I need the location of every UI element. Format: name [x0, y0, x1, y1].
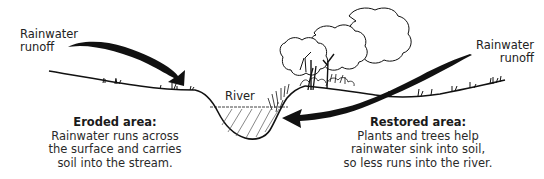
trees-icon [280, 8, 411, 90]
left-runoff-arrow [68, 42, 185, 86]
left-runoff-label-line2: runoff [20, 41, 78, 54]
restored-area-title: Restored area: [338, 116, 498, 130]
eroded-area-line: the surface and carries [40, 143, 190, 157]
restored-area-line: rainwater sink into soil, [338, 143, 498, 157]
eroded-area-line: Rainwater runs across [40, 130, 190, 144]
river-erosion-diagram: Rainwater runoff Rainwater runoff River … [0, 0, 544, 179]
right-runoff-label: Rainwater runoff [470, 39, 534, 65]
left-runoff-label: Rainwater runoff [20, 28, 78, 54]
right-runoff-label-line2: runoff [470, 52, 534, 65]
river-label: River [225, 90, 255, 103]
eroded-area-caption: Eroded area: Rainwater runs across the s… [40, 116, 190, 170]
restored-area-line: Plants and trees help [338, 130, 498, 144]
restored-area-caption: Restored area: Plants and trees help rai… [338, 116, 498, 170]
riverbed-hatching [222, 109, 279, 138]
eroded-area-title: Eroded area: [40, 116, 190, 130]
eroded-area-line: soil into the stream. [40, 157, 190, 171]
restored-area-line: so less runs into the river. [338, 157, 498, 171]
